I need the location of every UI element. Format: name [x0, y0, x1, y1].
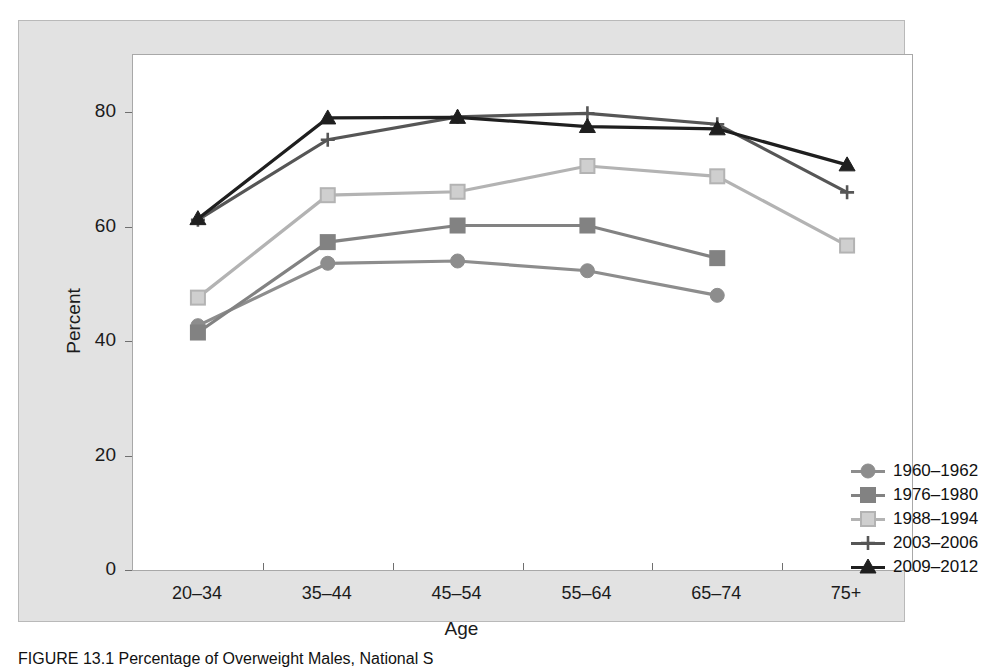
legend-label: 1976–1980 — [893, 485, 978, 505]
series-4 — [191, 106, 854, 226]
data-point — [451, 219, 465, 233]
legend-item-5[interactable]: 2009–2012 — [851, 555, 983, 579]
data-point — [321, 256, 335, 270]
x-tick-label: 45–54 — [432, 583, 482, 604]
legend-label: 2009–2012 — [893, 557, 978, 577]
data-point — [710, 251, 724, 265]
x-tick-label: 35–44 — [302, 583, 352, 604]
data-point — [580, 159, 594, 173]
legend-item-1[interactable]: 1960–1962 — [851, 459, 983, 483]
x-tick — [393, 563, 394, 570]
legend-marker-triangle-icon — [851, 558, 885, 576]
chart-legend: 1960–19621976–19801988–19942003–20062009… — [851, 459, 983, 579]
data-point — [840, 239, 854, 253]
legend-label: 2003–2006 — [893, 533, 978, 553]
data-point — [451, 185, 465, 199]
y-tick — [125, 456, 132, 457]
y-tick-label: 20 — [95, 444, 116, 466]
x-tick — [782, 563, 783, 570]
x-tick-label: 20–34 — [172, 583, 222, 604]
series-2 — [191, 219, 724, 340]
data-point — [321, 235, 335, 249]
data-point — [710, 169, 724, 183]
x-tick — [652, 563, 653, 570]
data-point — [191, 291, 205, 305]
legend-marker-plus-icon — [851, 534, 885, 552]
y-tick — [125, 112, 132, 113]
figure-caption: FIGURE 13.1 Percentage of Overweight Mal… — [18, 650, 433, 668]
y-tick-label: 80 — [95, 100, 116, 122]
series-line — [198, 261, 717, 326]
y-tick-label: 40 — [95, 329, 116, 351]
legend-item-2[interactable]: 1976–1980 — [851, 483, 983, 507]
legend-marker-square-icon — [851, 486, 885, 504]
series-5 — [190, 109, 855, 224]
legend-item-3[interactable]: 1988–1994 — [851, 507, 983, 531]
x-tick — [523, 563, 524, 570]
figure-panel: Percent 1960–19621976–19801988–19942003–… — [18, 20, 905, 622]
data-point — [710, 288, 724, 302]
legend-item-4[interactable]: 2003–2006 — [851, 531, 983, 555]
x-tick-label: 55–64 — [561, 583, 611, 604]
data-point — [840, 185, 854, 199]
legend-label: 1988–1994 — [893, 509, 978, 529]
line-chart-plot — [133, 55, 912, 570]
series-line — [198, 117, 847, 218]
y-tick-label: 0 — [105, 558, 116, 580]
y-tick — [125, 570, 132, 571]
legend-marker-square-icon — [851, 510, 885, 528]
plot-area: 1960–19621976–19801988–19942003–20062009… — [132, 54, 913, 571]
y-tick — [125, 341, 132, 342]
x-axis-title: Age — [445, 618, 479, 640]
legend-label: 1960–1962 — [893, 461, 978, 481]
data-point — [580, 219, 594, 233]
legend-marker-circle-icon — [851, 462, 885, 480]
y-axis-title: Percent — [63, 288, 85, 353]
data-point — [321, 188, 335, 202]
series-1 — [191, 254, 724, 333]
x-tick — [263, 563, 264, 570]
data-point — [580, 264, 594, 278]
y-tick — [125, 227, 132, 228]
data-point — [451, 254, 465, 268]
x-tick-label: 75+ — [831, 583, 862, 604]
y-tick-label: 60 — [95, 215, 116, 237]
series-line — [198, 113, 847, 219]
x-tick-label: 65–74 — [691, 583, 741, 604]
data-point — [191, 326, 205, 340]
